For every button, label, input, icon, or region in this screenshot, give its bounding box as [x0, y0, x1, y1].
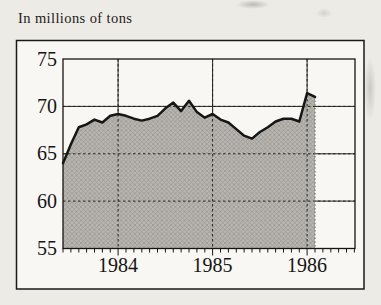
x-axis-label-1984: 1984	[98, 254, 138, 276]
x-axis-label-1986: 1986	[287, 254, 327, 276]
chart-canvas: In millions of tons 75 70 65 60 55 1984 …	[0, 0, 381, 305]
y-axis-label-60: 60	[37, 190, 57, 212]
y-axis-label-55: 55	[37, 237, 57, 259]
x-axis-label-1985: 1985	[193, 254, 233, 276]
y-axis-label-65: 65	[37, 142, 57, 164]
y-axis-label-70: 70	[37, 95, 57, 117]
chart-title: In millions of tons	[18, 10, 132, 26]
y-axis-label-75: 75	[37, 48, 57, 70]
